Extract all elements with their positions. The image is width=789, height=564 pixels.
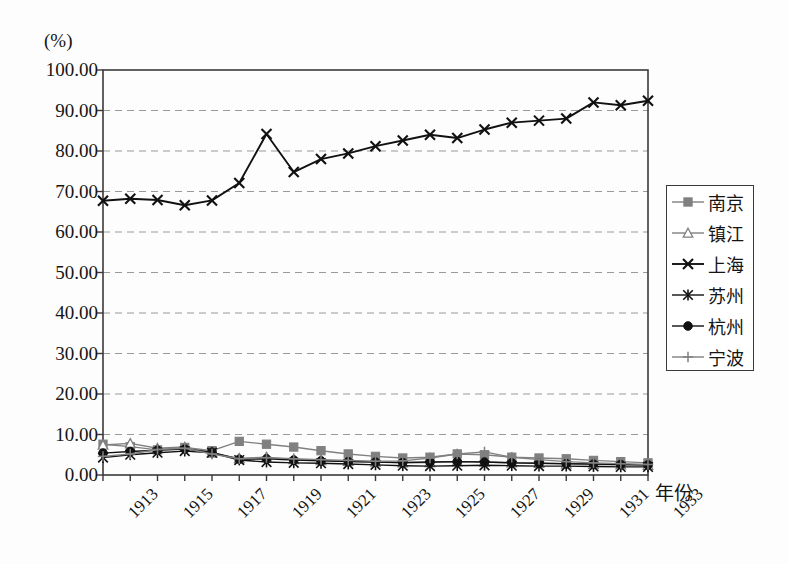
x-axis-tick-label: 1931 [615, 485, 651, 521]
x-axis-tick-label: 1921 [343, 485, 379, 521]
legend-marker-asterisk-icon [670, 287, 706, 303]
x-axis-tick-label: 1923 [397, 485, 433, 521]
legend-item-南京[interactable]: 南京 [667, 186, 753, 217]
x-axis-tick-label: 1925 [452, 485, 488, 521]
x-axis-tick-label: 1919 [288, 485, 324, 521]
x-axis-title: 年份 [655, 478, 693, 505]
legend-marker-cross-icon [670, 256, 706, 272]
legend-marker [683, 351, 693, 361]
x-axis-tick-label: 1913 [125, 485, 161, 521]
marker-square [684, 197, 692, 205]
legend: 南京镇江上海苏州杭州宁波 [666, 185, 754, 371]
legend-label: 宁波 [708, 344, 744, 370]
legend-item-宁波[interactable]: 宁波 [667, 341, 753, 372]
legend-label: 苏州 [708, 282, 744, 308]
legend-item-镇江[interactable]: 镇江 [667, 217, 753, 248]
legend-marker [684, 197, 692, 205]
legend-marker-plus-icon [670, 349, 706, 365]
chart-figure: (%) 100.0090.0080.0070.0060.0050.0040.00… [0, 0, 789, 564]
legend-label: 南京 [708, 189, 744, 215]
legend-label: 上海 [708, 251, 744, 277]
legend-item-杭州[interactable]: 杭州 [667, 310, 753, 341]
legend-marker-circle-icon [670, 318, 706, 334]
x-axis-tick-label: 1915 [179, 485, 215, 521]
legend-marker-square-icon [670, 194, 706, 210]
x-axis-tick-label: 1929 [561, 485, 597, 521]
x-axis-tick-label: 1927 [506, 485, 542, 521]
x-axis-tick-label: 1917 [234, 485, 270, 521]
marker-circle [684, 321, 693, 330]
legend-marker [684, 321, 693, 330]
legend-label: 杭州 [708, 313, 744, 339]
legend-marker-triangle-icon [670, 225, 706, 241]
legend-label: 镇江 [708, 220, 744, 246]
legend-item-苏州[interactable]: 苏州 [667, 279, 753, 310]
legend-item-上海[interactable]: 上海 [667, 248, 753, 279]
